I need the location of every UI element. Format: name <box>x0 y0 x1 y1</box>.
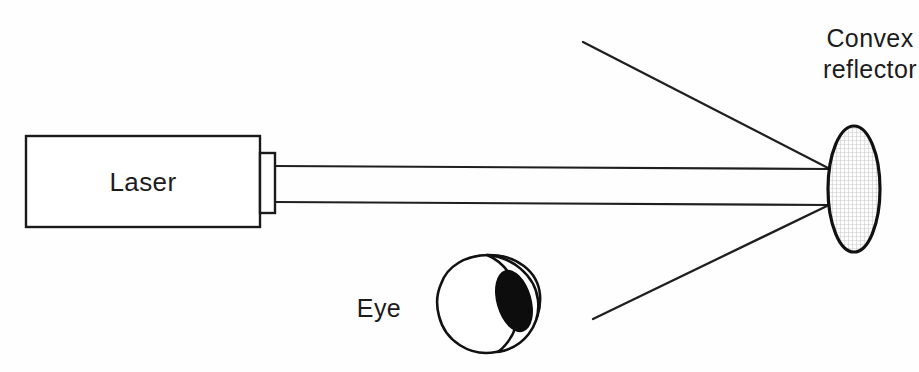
reflector-label-line1: Convex <box>826 24 913 52</box>
incident-beam-lower <box>275 202 829 205</box>
eye-label: Eye <box>357 294 401 322</box>
diagram-canvas: Laser Convex reflector Eye <box>0 0 919 372</box>
reflector-label-line2: reflector <box>823 55 917 83</box>
eye-group: Eye <box>357 255 540 353</box>
incident-beam-group <box>275 166 830 205</box>
laser-aperture-rect <box>260 153 275 213</box>
laser-label: Laser <box>109 167 176 197</box>
convex-reflector-group: Convex reflector <box>823 24 917 252</box>
laser-assembly: Laser <box>26 136 275 227</box>
reflected-ray-group <box>583 42 830 319</box>
incident-beam-upper <box>275 166 830 169</box>
optics-diagram: Laser Convex reflector Eye <box>0 0 919 372</box>
reflected-ray-upper <box>583 42 830 169</box>
reflected-ray-lower <box>593 205 829 319</box>
convex-reflector-shape <box>828 126 880 252</box>
